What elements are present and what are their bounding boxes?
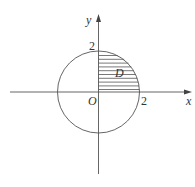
y-axis-arrow-icon — [96, 14, 101, 22]
y-tick-label: 2 — [89, 39, 95, 53]
x-axis-label: x — [185, 94, 192, 108]
origin-label: O — [88, 94, 97, 108]
x-tick-label: 2 — [141, 94, 147, 108]
y-axis-label: y — [85, 13, 92, 27]
coordinate-diagram: y x O 2 2 D — [0, 0, 195, 187]
region-label: D — [114, 66, 124, 80]
